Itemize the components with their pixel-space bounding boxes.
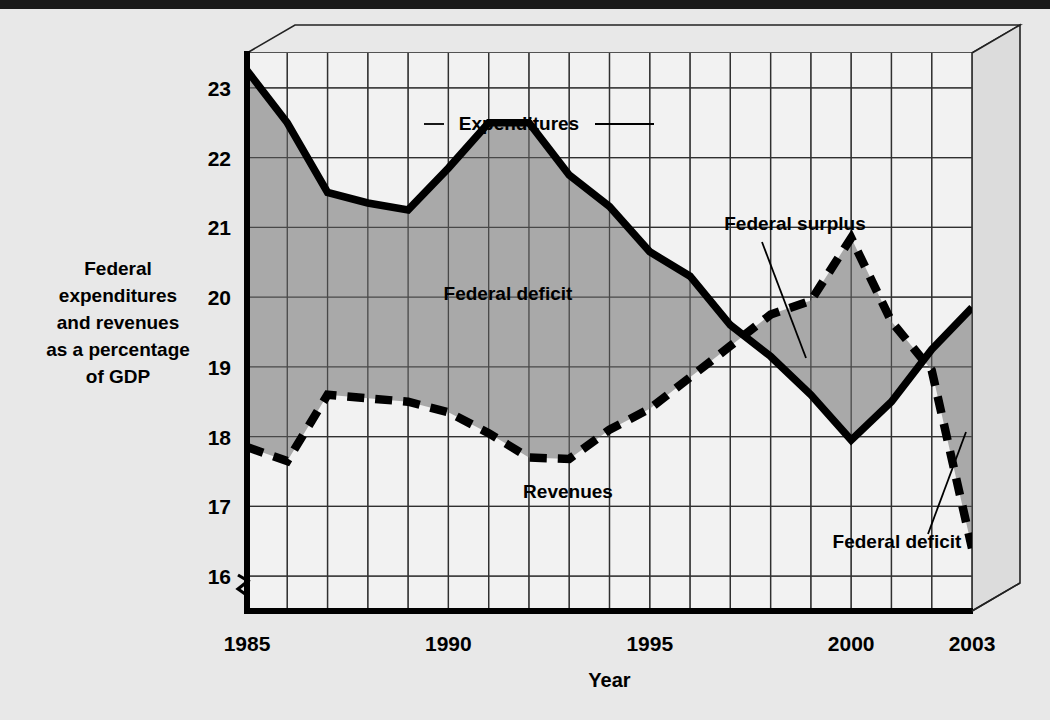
y-tick-label: 21: [208, 216, 232, 239]
y-axis-caption-line: and revenues: [57, 312, 180, 333]
x-tick-label: 2003: [949, 632, 996, 655]
y-axis-caption-line: of GDP: [86, 366, 151, 387]
y-axis-caption-line: as a percentage: [46, 339, 190, 360]
x-tick-label: 2000: [828, 632, 875, 655]
y-tick-label: 16: [208, 565, 231, 588]
chart-figure: 161718192021222319851990199520002003Year…: [0, 0, 1050, 720]
annotation-revenues: Revenues: [523, 481, 613, 502]
x-tick-label: 1990: [425, 632, 472, 655]
x-axis-title: Year: [588, 669, 630, 691]
y-tick-label: 20: [208, 286, 231, 309]
y-axis-caption-line: Federal: [84, 258, 152, 279]
annotation-federal-surplus: Federal surplus: [724, 213, 866, 234]
federal-budget-line-chart: 161718192021222319851990199520002003Year…: [0, 0, 1050, 720]
y-axis-caption-line: expenditures: [59, 285, 177, 306]
y-tick-label: 19: [208, 356, 231, 379]
y-tick-label: 22: [208, 147, 231, 170]
y-tick-label: 17: [208, 495, 231, 518]
annotation-federal-deficit-right: Federal deficit: [833, 531, 962, 552]
y-tick-label: 23: [208, 77, 231, 100]
y-tick-label: 18: [208, 426, 232, 449]
annotation-expenditures: Expenditures: [459, 113, 579, 134]
x-tick-label: 1995: [626, 632, 673, 655]
annotation-federal-deficit-left: Federal deficit: [444, 283, 573, 304]
x-tick-label: 1985: [224, 632, 271, 655]
